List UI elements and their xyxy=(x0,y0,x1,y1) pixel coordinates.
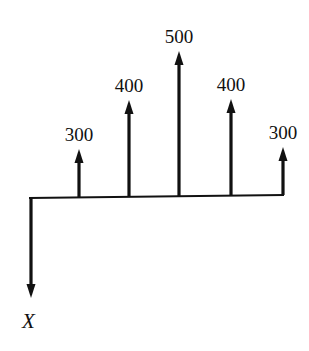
arrow-up-icon xyxy=(279,147,288,161)
outflow-label: X xyxy=(21,309,36,333)
arrow-up-icon xyxy=(75,149,84,163)
arrow-up-icon xyxy=(227,99,236,113)
inflow-label: 300 xyxy=(269,122,298,143)
inflow-label: 300 xyxy=(65,124,94,145)
arrow-up-icon xyxy=(125,100,134,114)
inflow-label: 400 xyxy=(217,74,246,95)
inflow-label: 400 xyxy=(115,75,144,96)
inflow-label: 500 xyxy=(165,26,194,47)
arrow-down-icon xyxy=(27,284,36,298)
time-axis-line xyxy=(29,195,284,198)
arrow-up-icon xyxy=(175,51,184,65)
cash-flow-diagram: X300400500400300 xyxy=(0,0,309,351)
